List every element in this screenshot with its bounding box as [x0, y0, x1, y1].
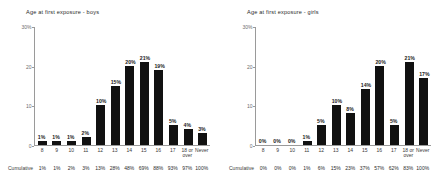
bar-value-label: 14%	[361, 82, 371, 88]
x-tick-label: 13	[329, 148, 344, 159]
cumulative-value: 100%	[195, 165, 210, 171]
bar: 20%	[375, 66, 384, 145]
bar-value-label: 1%	[52, 134, 60, 140]
bar-slot: 3%	[195, 27, 210, 145]
bar-value-label: 8%	[346, 106, 354, 112]
bar: 5%	[317, 125, 326, 145]
bar: 19%	[154, 70, 163, 145]
bar-value-label: 20%	[375, 59, 385, 65]
x-tick-label: 11	[300, 148, 315, 159]
bar: 5%	[390, 125, 399, 145]
cumulative-value: 2%	[64, 165, 79, 171]
bar-value-label: 0%	[273, 138, 281, 144]
x-tick-label: 18 or over	[180, 148, 195, 159]
y-tick-mark	[253, 67, 255, 68]
bar-slot: 0%	[271, 27, 286, 145]
cumulative-value: 28%	[108, 165, 123, 171]
bar-value-label: 1%	[303, 134, 311, 140]
y-tick-label: 10	[26, 103, 32, 109]
bar: 10%	[96, 105, 105, 145]
cumulative-row-boys: Cumulative 1%1%2%3%13%28%48%69%88%93%97%…	[0, 165, 209, 171]
cumulative-value: 0%	[271, 165, 286, 171]
cumulative-value: 48%	[122, 165, 137, 171]
x-tick-labels-girls: 89101112131415161718 or overNever	[256, 148, 430, 159]
x-tick-label: 15	[358, 148, 373, 159]
y-tick-mark	[253, 106, 255, 107]
bar-slot: 10%	[329, 27, 344, 145]
cumulative-value: 1%	[50, 165, 65, 171]
bar: 21%	[405, 62, 414, 145]
x-axis-girls	[255, 145, 431, 146]
x-tick-label: 15	[137, 148, 152, 159]
bar-value-label: 4%	[184, 122, 192, 128]
bar: 10%	[332, 105, 341, 145]
bar-slot: 1%	[300, 27, 315, 145]
x-axis-boys	[34, 145, 210, 146]
bar-slot: 5%	[166, 27, 181, 145]
cumulative-value: 62%	[387, 165, 402, 171]
x-tick-label: 14	[343, 148, 358, 159]
chart-title-boys: Age at first exposure - boys	[26, 9, 99, 15]
cumulative-value: 83%	[401, 165, 416, 171]
bar-slot: 5%	[387, 27, 402, 145]
cumulative-value: 3%	[79, 165, 94, 171]
bar-value-label: 5%	[317, 118, 325, 124]
cumulative-value: 0%	[256, 165, 271, 171]
bar-value-label: 19%	[154, 63, 164, 69]
y-tick-label: 30%	[21, 24, 31, 30]
cumulative-value: 37%	[358, 165, 373, 171]
bar: 2%	[82, 137, 91, 145]
bar-slot: 1%	[35, 27, 50, 145]
cumulative-value: 6%	[314, 165, 329, 171]
cumulative-value: 69%	[137, 165, 152, 171]
x-tick-label: Never	[416, 148, 431, 159]
bar: 1%	[52, 141, 61, 145]
bar-value-label: 0%	[288, 138, 296, 144]
bar-slot: 0%	[256, 27, 271, 145]
bar-value-label: 3%	[198, 126, 206, 132]
cumulative-value: 57%	[372, 165, 387, 171]
bar-value-label: 21%	[405, 55, 415, 61]
y-tick-mark	[32, 146, 34, 147]
bar-value-label: 15%	[111, 79, 121, 85]
x-tick-label: 12	[314, 148, 329, 159]
bar-value-label: 20%	[125, 59, 135, 65]
cumulative-value: 88%	[151, 165, 166, 171]
x-tick-label: 16	[372, 148, 387, 159]
cumulative-value: 100%	[416, 165, 431, 171]
bar-slot: 2%	[79, 27, 94, 145]
x-tick-label: 14	[122, 148, 137, 159]
bar: 1%	[67, 141, 76, 145]
cumulative-label-boys: Cumulative	[0, 165, 35, 171]
bar: 1%	[303, 141, 312, 145]
y-tick-label: 20	[26, 64, 32, 70]
bar-value-label: 2%	[82, 130, 90, 136]
bar-slot: 19%	[152, 27, 167, 145]
bar-value-label: 17%	[419, 71, 429, 77]
x-tick-label: 16	[151, 148, 166, 159]
x-tick-label: 17	[387, 148, 402, 159]
x-tick-label: Never	[195, 148, 210, 159]
chart-panel-girls: Age at first exposure - girls 0102030% 0…	[221, 0, 441, 192]
cumulative-values-boys: 1%1%2%3%13%28%48%69%88%93%97%100%	[35, 165, 209, 171]
y-tick-mark	[32, 67, 34, 68]
bar: 14%	[361, 89, 370, 145]
bar-slot: 21%	[137, 27, 152, 145]
plot-area-boys: 0102030% 1%1%1%2%10%15%20%21%19%5%4%3%	[34, 27, 210, 146]
chart-title-girls: Age at first exposure - girls	[247, 9, 319, 15]
bar-slot: 17%	[416, 27, 431, 145]
bar: 15%	[111, 86, 120, 146]
x-tick-label: 10	[64, 148, 79, 159]
cumulative-value: 15%	[329, 165, 344, 171]
cumulative-value: 1%	[35, 165, 50, 171]
x-tick-label: 8	[35, 148, 50, 159]
bar-value-label: 5%	[390, 118, 398, 124]
bar-value-label: 0%	[259, 138, 267, 144]
bar-slot: 14%	[358, 27, 373, 145]
bar-slot: 4%	[181, 27, 196, 145]
bar-value-label: 5%	[169, 118, 177, 124]
y-tick-mark	[32, 106, 34, 107]
chart-page: Age at first exposure - boys 0102030% 1%…	[0, 0, 441, 192]
x-tick-label: 9	[271, 148, 286, 159]
bar: 1%	[38, 141, 47, 145]
